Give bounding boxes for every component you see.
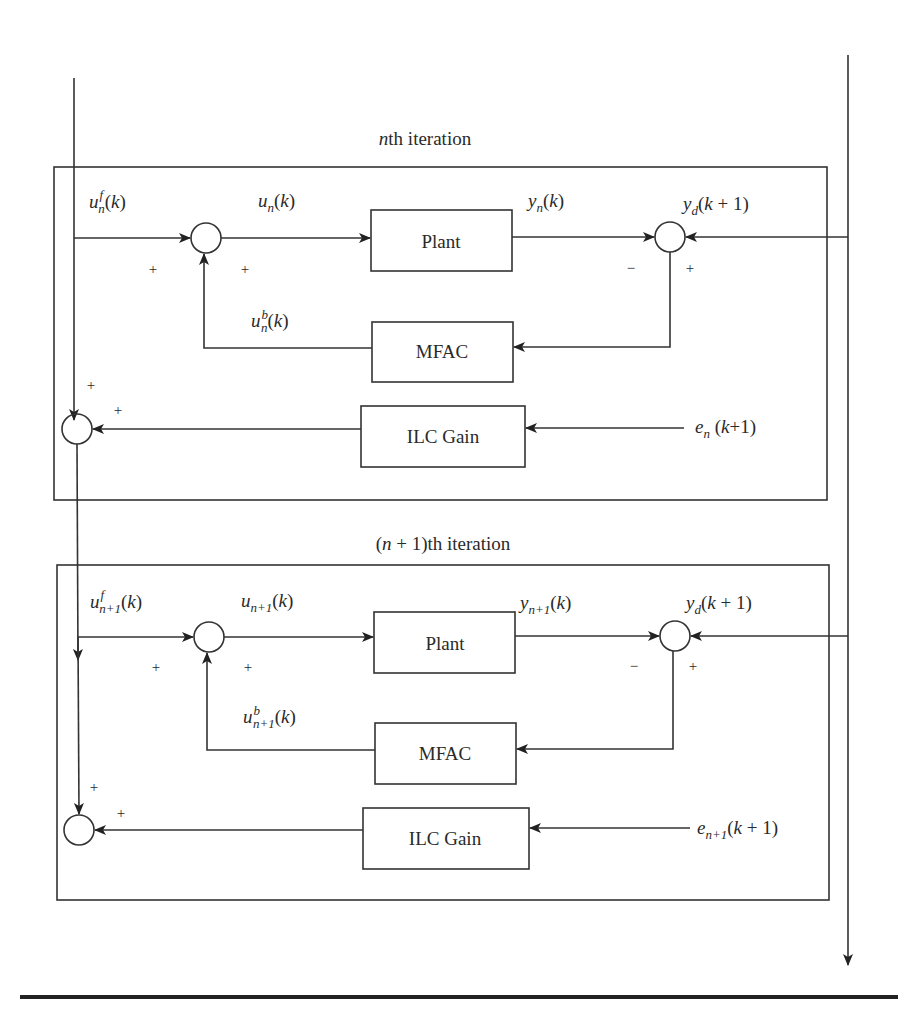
- sign-plus: +: [90, 779, 98, 795]
- sum-junction-control: [191, 223, 221, 253]
- y-n-label: yn(k): [526, 190, 564, 215]
- e-n1-label: en+1(k + 1): [697, 817, 778, 842]
- u-n-label: un(k): [258, 190, 295, 215]
- feedforward-down-line: [78, 637, 79, 814]
- ub-n1-label: ubn+1(k): [243, 703, 296, 731]
- sign-minus: −: [627, 260, 635, 276]
- sign-minus: −: [630, 658, 638, 674]
- block-diagram-canvas: nth iteration Plant MFAC ILC Gain ufn(k)…: [0, 0, 906, 1010]
- iteration-n-plus-1-group: (n + 1)th iteration Plant MFAC ILC Gain …: [57, 533, 848, 900]
- y-n1-label: yn+1(k): [518, 592, 571, 617]
- sign-plus: +: [686, 260, 694, 276]
- mfac-to-sum-arrow: [204, 254, 372, 348]
- mfac-to-sum-arrow: [207, 653, 375, 750]
- sign-plus: +: [149, 261, 157, 277]
- plant-label: Plant: [425, 633, 465, 654]
- ilc-sum-to-next-arrow: [77, 444, 78, 660]
- sign-plus: +: [241, 261, 249, 277]
- ub-n-label: ubn(k): [251, 307, 289, 335]
- iteration-n-group: nth iteration Plant MFAC ILC Gain ufn(k)…: [54, 128, 848, 660]
- sign-plus: +: [87, 377, 95, 393]
- iteration-n-frame: [54, 167, 827, 500]
- error-to-mfac-arrow: [517, 651, 673, 749]
- ilc-gain-label: ILC Gain: [407, 426, 480, 447]
- sign-plus: +: [117, 805, 125, 821]
- sign-plus: +: [244, 659, 252, 675]
- sum-junction-ilc: [62, 414, 92, 444]
- sum-junction-error: [655, 222, 685, 252]
- iteration-n-title: nth iteration: [379, 128, 472, 149]
- sign-plus: +: [152, 659, 160, 675]
- iteration-n-plus-1-frame: [57, 565, 829, 900]
- uf-n-label: ufn(k): [89, 187, 126, 216]
- yd-label: yd(k + 1): [684, 592, 752, 617]
- yd-label: yd(k + 1): [681, 193, 749, 218]
- sum-junction-control: [194, 622, 224, 652]
- mfac-label: MFAC: [416, 341, 468, 362]
- ilc-gain-label: ILC Gain: [409, 828, 482, 849]
- plant-label: Plant: [421, 231, 461, 252]
- sum-junction-error: [660, 621, 690, 651]
- error-to-mfac-arrow: [514, 252, 670, 347]
- u-n1-label: un+1(k): [241, 590, 293, 615]
- uf-n1-label: ufn+1(k): [90, 587, 142, 616]
- iteration-n-plus-1-title: (n + 1)th iteration: [376, 533, 511, 555]
- e-n-label: en (k+1): [695, 416, 756, 441]
- sign-plus: +: [114, 402, 122, 418]
- sign-plus: +: [689, 658, 697, 674]
- sum-junction-ilc: [64, 815, 94, 845]
- mfac-label: MFAC: [419, 743, 471, 764]
